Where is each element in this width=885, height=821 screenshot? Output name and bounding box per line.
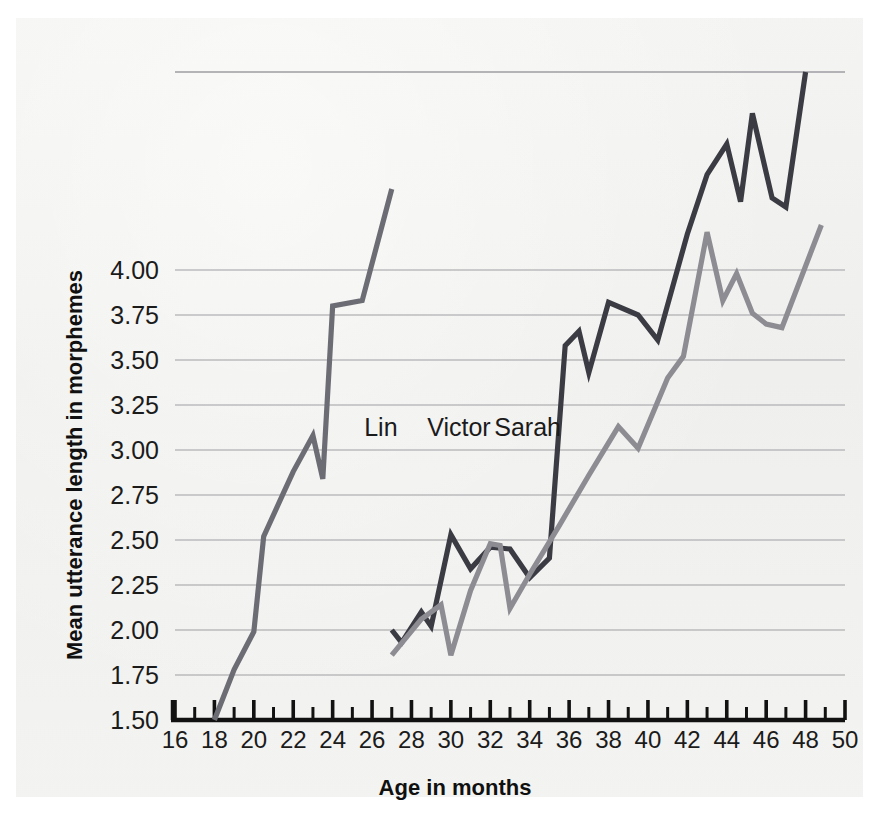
y-tick-label: 2.75 bbox=[110, 481, 159, 509]
x-tick-label: 44 bbox=[713, 726, 740, 753]
series-line-victor bbox=[392, 72, 806, 643]
series-label-sarah: Sarah bbox=[494, 413, 561, 441]
x-tick-labels-group: 161820222426283032343638404244464850 bbox=[162, 726, 859, 753]
chart-figure: 1.501.752.002.252.502.753.003.253.503.75… bbox=[0, 0, 885, 821]
x-tick-label: 16 bbox=[162, 726, 189, 753]
y-tick-label: 3.50 bbox=[110, 346, 159, 374]
series-label-victor: Victor bbox=[427, 413, 490, 441]
series-line-lin bbox=[214, 189, 391, 720]
x-tick-label: 48 bbox=[792, 726, 819, 753]
x-tick-label: 26 bbox=[359, 726, 386, 753]
line-chart-plot: 1.501.752.002.252.502.753.003.253.503.75… bbox=[0, 0, 885, 821]
y-tick-label: 2.00 bbox=[110, 616, 159, 644]
y-tick-label: 3.25 bbox=[110, 391, 159, 419]
x-tick-label: 46 bbox=[753, 726, 780, 753]
x-tick-label: 50 bbox=[832, 726, 859, 753]
x-tick-label: 30 bbox=[438, 726, 465, 753]
x-tick-label: 24 bbox=[319, 726, 346, 753]
series-label-lin: Lin bbox=[364, 413, 397, 441]
x-axis-title: Age in months bbox=[379, 775, 532, 800]
y-tick-label: 3.75 bbox=[110, 301, 159, 329]
gridlines-group bbox=[175, 270, 845, 675]
y-tick-label: 2.25 bbox=[110, 571, 159, 599]
x-tick-label: 32 bbox=[477, 726, 504, 753]
y-tick-label: 1.50 bbox=[110, 706, 159, 734]
x-tick-label: 28 bbox=[398, 726, 425, 753]
y-tick-label: 3.00 bbox=[110, 436, 159, 464]
x-tick-label: 36 bbox=[556, 726, 583, 753]
x-tick-label: 40 bbox=[635, 726, 662, 753]
x-tick-label: 22 bbox=[280, 726, 307, 753]
y-tick-labels-group: 1.501.752.002.252.502.753.003.253.503.75… bbox=[110, 256, 159, 734]
x-tick-label: 20 bbox=[240, 726, 267, 753]
y-tick-label: 2.50 bbox=[110, 526, 159, 554]
y-axis-title: Mean utterance length in morphemes bbox=[62, 270, 87, 660]
y-tick-label: 4.00 bbox=[110, 256, 159, 284]
y-tick-label: 1.75 bbox=[110, 661, 159, 689]
series-lines-group bbox=[214, 72, 821, 720]
x-tick-label: 42 bbox=[674, 726, 701, 753]
series-labels-group: LinVictorSarah bbox=[364, 413, 561, 441]
x-tick-label: 34 bbox=[516, 726, 543, 753]
x-tick-label: 18 bbox=[201, 726, 228, 753]
x-tick-marks-group bbox=[175, 700, 845, 720]
x-tick-label: 38 bbox=[595, 726, 622, 753]
